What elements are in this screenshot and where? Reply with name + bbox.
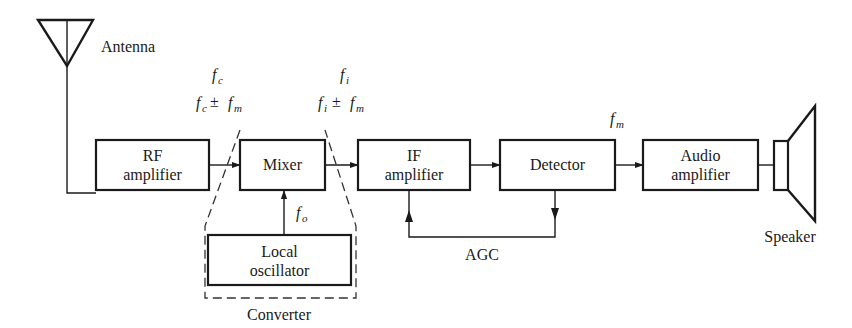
svg-text:±: ± <box>332 93 341 110</box>
svg-text:i: i <box>346 74 349 86</box>
local-oscillator-block: Local oscillator <box>208 235 351 285</box>
receiver-block-diagram: Antenna RF amplifier Converter Mixer Loc… <box>0 0 852 328</box>
antenna-icon <box>38 20 93 66</box>
svg-text:m: m <box>234 102 242 114</box>
mixer-label: Mixer <box>263 156 303 173</box>
detector-block: Detector <box>500 140 615 190</box>
rf-amplifier-label-line1: RF <box>143 147 163 164</box>
local-oscillator-label-line2: oscillator <box>250 262 310 279</box>
svg-text:c: c <box>218 74 223 86</box>
lo-frequency-label: f o <box>296 204 308 224</box>
audio-amplifier-label-line1: Audio <box>681 147 721 164</box>
speaker-icon <box>774 106 815 221</box>
antenna-label: Antenna <box>101 38 155 55</box>
agc-label: AGC <box>465 246 499 263</box>
rf-amplifier-block: RF amplifier <box>96 140 209 190</box>
converter-label: Converter <box>247 306 312 323</box>
svg-text:i: i <box>324 102 327 114</box>
audio-amplifier-block: Audio amplifier <box>643 140 758 190</box>
svg-text:c: c <box>202 102 207 114</box>
if-signal-label: f i f i ± f m <box>318 66 364 114</box>
if-amplifier-block: IF amplifier <box>358 140 470 190</box>
antenna-feed-wire <box>67 66 96 193</box>
audio-signal-label: f m <box>610 110 624 130</box>
svg-text:o: o <box>302 212 308 224</box>
svg-text:±: ± <box>210 93 219 110</box>
agc-loop <box>405 190 559 237</box>
if-amplifier-label-line2: amplifier <box>385 166 444 184</box>
svg-text:m: m <box>616 118 624 130</box>
local-oscillator-label-line1: Local <box>261 243 298 260</box>
rf-signal-label: f c f c ± f m <box>196 66 242 114</box>
speaker-label: Speaker <box>764 228 816 246</box>
rf-amplifier-label-line2: amplifier <box>123 166 182 184</box>
mixer-block: Mixer <box>240 140 325 190</box>
audio-amplifier-label-line2: amplifier <box>671 166 730 184</box>
svg-text:m: m <box>356 102 364 114</box>
if-amplifier-label-line1: IF <box>407 147 421 164</box>
detector-label: Detector <box>530 156 586 173</box>
